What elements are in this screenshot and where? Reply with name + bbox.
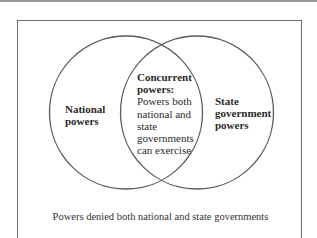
concurrent-desc-line-4: governments [137, 132, 194, 144]
concurrent-desc-line-1: Powers both [137, 95, 194, 107]
national-powers-label: National powers [65, 103, 105, 127]
concurrent-desc-line-2: national and [137, 108, 194, 120]
concurrent-desc-line-3: state [137, 120, 194, 132]
concurrent-powers-label: Concurrent powers: Powers both national … [137, 71, 194, 156]
state-powers-line-2: government [215, 107, 271, 119]
state-powers-label: State government powers [215, 95, 271, 132]
national-powers-line-1: National [65, 103, 105, 115]
concurrent-title-line-1: Concurrent [137, 71, 194, 83]
concurrent-desc-line-5: can exercise [137, 144, 194, 156]
national-powers-line-2: powers [65, 115, 105, 127]
denied-powers-label: Powers denied both national and state go… [0, 211, 317, 222]
state-powers-line-1: State [215, 95, 271, 107]
state-powers-line-3: powers [215, 119, 271, 131]
concurrent-title-line-2: powers: [137, 83, 194, 95]
